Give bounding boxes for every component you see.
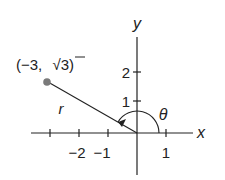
angle-label: θ (159, 106, 168, 123)
coordinate-diagram: −2 −1 1 2 1 x y (−3, √3) r θ (0, 0, 225, 180)
radius-label: r (59, 100, 65, 117)
point-marker (43, 78, 51, 86)
x-tick-label-1: 1 (162, 144, 170, 161)
y-axis-label: y (132, 15, 142, 32)
x-tick-label-neg1: −1 (93, 144, 110, 161)
y-tick-label-2: 2 (122, 64, 130, 81)
point-label: (−3, √3) (16, 56, 74, 73)
y-tick-label-1: 1 (122, 93, 130, 110)
x-tick-label-neg2: −2 (68, 144, 85, 161)
x-axis-label: x (196, 124, 206, 141)
